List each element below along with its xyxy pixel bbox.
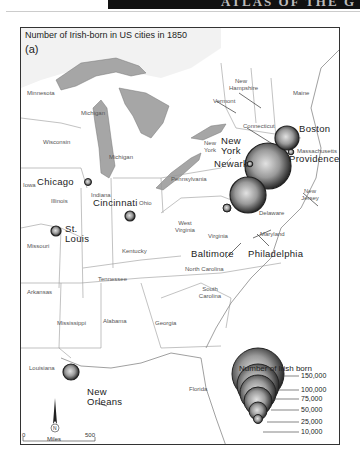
header-divider <box>6 11 360 12</box>
legend-value: 25,000 <box>301 418 322 425</box>
state-label: Arkansas <box>27 289 52 296</box>
state-label: Minnesota <box>27 90 55 97</box>
state-label: Delaware <box>259 210 284 217</box>
city-label-boston: Boston <box>299 124 330 134</box>
scale-start: 0 <box>22 432 25 438</box>
state-label: Mississippi <box>57 320 86 327</box>
legend-value: 100,000 <box>301 386 326 393</box>
city-label-baltimore: Baltimore <box>191 249 234 259</box>
state-label: New Jersey <box>301 188 319 202</box>
legend-value: 150,000 <box>301 372 326 379</box>
state-label: Michigan <box>109 154 133 161</box>
legend-symbols <box>232 348 299 432</box>
state-label: Virginia <box>208 233 228 240</box>
map-title: Number of Irish-born in US cities in 185… <box>25 30 187 40</box>
state-label: Maine <box>293 90 309 97</box>
map-frame: Number of Irish-born in US cities in 185… <box>20 27 340 445</box>
legend-value: 50,000 <box>301 406 322 413</box>
city-label-providence: Providence <box>289 154 340 164</box>
state-label: North Carolina <box>185 266 224 273</box>
city-label-st-louis: St. Louis <box>65 224 91 244</box>
city-label-newark: Newark <box>214 159 248 169</box>
state-label: Vermont <box>213 98 235 105</box>
north-label: N <box>53 425 57 431</box>
state-label: Tennessee <box>98 276 127 283</box>
state-label: Illinois <box>51 198 68 205</box>
state-label: South Carolina <box>197 286 223 300</box>
state-label: Pennsylvania <box>171 176 207 183</box>
state-label: Kentucky <box>122 248 147 255</box>
state-label: Connecticut <box>243 123 275 130</box>
state-label: Iowa <box>23 182 36 189</box>
scale-end: 500 <box>85 432 95 438</box>
state-label: Louisiana <box>29 365 55 372</box>
city-label-cincinnati: Cincinnati <box>93 198 138 208</box>
state-label: Michigan <box>81 110 105 117</box>
state-label: Georgia <box>155 320 176 327</box>
state-label: New York <box>203 140 217 154</box>
header-banner: ATLAS OF THE G <box>108 0 360 9</box>
legend-value: 10,000 <box>301 428 322 435</box>
state-label: New Hampshire <box>229 78 253 92</box>
header-banner-text: ATLAS OF THE G <box>221 0 356 9</box>
state-label: Wisconsin <box>43 139 70 146</box>
state-label: Ohio <box>139 200 152 207</box>
city-label-philadelphia: Philadelphia <box>248 249 303 259</box>
city-label-chicago: Chicago <box>37 177 74 187</box>
city-label-new-york: New York <box>221 136 247 156</box>
city-label-new-orleans: New Orleans <box>87 387 127 407</box>
state-label: West Virginia <box>174 220 196 234</box>
state-label: Missouri <box>27 243 49 250</box>
state-label: Alabama <box>103 318 127 325</box>
legend-value: 75,000 <box>301 395 322 402</box>
panel-label: (a) <box>25 43 38 55</box>
state-label: Maryland <box>260 231 285 238</box>
state-label: Florida <box>189 386 207 393</box>
scale-unit: Miles <box>47 436 61 442</box>
